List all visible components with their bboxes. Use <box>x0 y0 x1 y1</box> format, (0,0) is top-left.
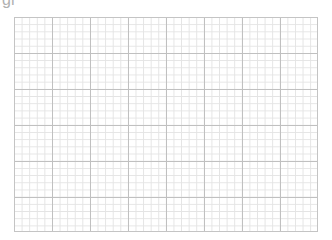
graph-title-fragment: gr <box>2 0 16 9</box>
graph-paper-grid <box>14 17 318 232</box>
